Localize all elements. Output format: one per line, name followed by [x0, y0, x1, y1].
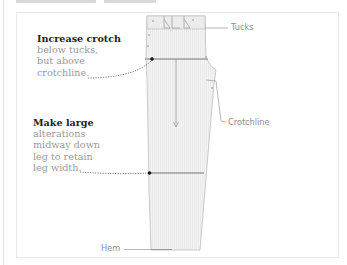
midleg-note-title: Make large — [33, 117, 100, 128]
crotch-marker-dot — [150, 57, 154, 61]
midleg-note-line: midway down — [33, 139, 100, 150]
crotch-note-line: but above — [37, 55, 121, 66]
midleg-note-line: leg width. — [33, 162, 100, 173]
tucks-label: Tucks — [231, 22, 253, 32]
midleg-note: Make large alterations midway down leg t… — [33, 117, 100, 173]
midleg-note-line: leg to retain — [33, 151, 100, 162]
tucks-region — [147, 16, 205, 29]
trouser-pattern-piece — [146, 16, 216, 250]
crotch-note: Increase crotch below tucks, but above c… — [37, 33, 121, 78]
crotch-note-title: Increase crotch — [37, 33, 121, 44]
crotch-note-line: crotchline. — [37, 67, 121, 78]
midleg-note-line: alterations — [33, 128, 100, 139]
crotchline-label: Crotchline — [228, 117, 270, 127]
midleg-marker-dot — [148, 171, 152, 175]
crotch-note-line: below tucks, — [37, 44, 121, 55]
hem-label: Hem — [101, 243, 120, 253]
